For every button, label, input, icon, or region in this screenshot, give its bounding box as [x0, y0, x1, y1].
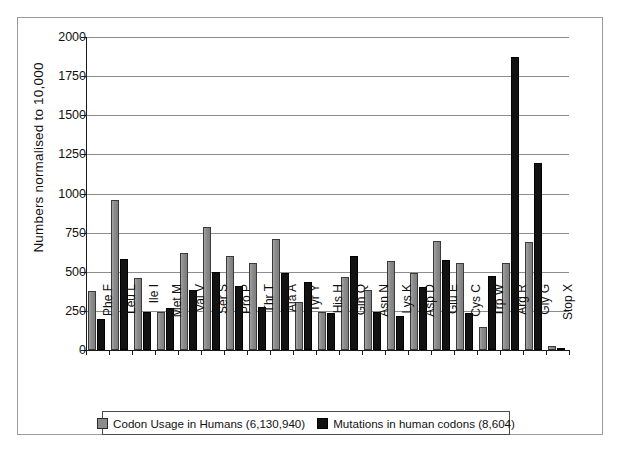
- y-tick-mark: [81, 194, 86, 195]
- y-tick-label: 1500: [38, 108, 86, 122]
- x-tick-mark: [224, 350, 225, 355]
- x-tick-mark: [293, 350, 294, 355]
- x-tick-mark: [178, 350, 179, 355]
- x-tick-mark: [339, 350, 340, 355]
- x-tick-label: Lys K: [400, 284, 414, 358]
- x-tick-label: Phe F: [101, 284, 115, 358]
- x-tick-mark: [500, 350, 501, 355]
- y-tick-mark: [81, 154, 86, 155]
- x-tick-mark: [316, 350, 317, 355]
- x-tick-label: Trp W: [492, 284, 506, 358]
- x-tick-mark: [569, 350, 570, 355]
- y-tick-mark: [81, 272, 86, 273]
- x-tick-mark: [201, 350, 202, 355]
- legend-item: Mutations in human codons (8,604): [317, 417, 515, 430]
- x-tick-label: Asp D: [423, 284, 437, 358]
- legend-label: Mutations in human codons (8,604): [333, 417, 515, 430]
- y-tick-label: 1750: [38, 69, 86, 83]
- y-tick-label: 0: [38, 343, 86, 357]
- x-tick-mark: [247, 350, 248, 355]
- y-axis-tick-labels: 025050075010001250150017502000: [30, 0, 86, 450]
- x-tick-mark: [431, 350, 432, 355]
- x-tick-mark: [86, 350, 87, 355]
- x-tick-label: His H: [331, 284, 345, 358]
- y-tick-mark: [81, 37, 86, 38]
- legend-item: Codon Usage in Humans (6,130,940): [97, 417, 305, 430]
- x-tick-mark: [523, 350, 524, 355]
- x-tick-mark: [362, 350, 363, 355]
- y-tick-mark: [81, 115, 86, 116]
- x-tick-label: Ser S: [216, 284, 230, 358]
- x-tick-mark: [454, 350, 455, 355]
- x-tick-label: Gln Q: [354, 284, 368, 358]
- x-tick-label: Asn N: [377, 284, 391, 358]
- x-tick-label: Glu E: [446, 284, 460, 358]
- x-tick-label: Met M: [170, 284, 184, 358]
- x-tick-mark: [109, 350, 110, 355]
- chart-figure: Numbers normalised to 10,000 02505007501…: [0, 0, 620, 450]
- y-tick-mark: [81, 233, 86, 234]
- x-tick-label: Gly G: [538, 284, 552, 358]
- x-tick-label: Arg R: [515, 284, 529, 358]
- x-tick-label: Leu L: [124, 284, 138, 358]
- x-tick-mark: [546, 350, 547, 355]
- legend-label: Codon Usage in Humans (6,130,940): [113, 417, 305, 430]
- bar-codon-usage: [88, 291, 96, 350]
- y-tick-label: 2000: [38, 30, 86, 44]
- x-tick-label: Val V: [193, 284, 207, 358]
- y-tick-mark: [81, 311, 86, 312]
- x-tick-mark: [408, 350, 409, 355]
- y-axis-line: [86, 37, 87, 351]
- y-tick-label: 500: [38, 265, 86, 279]
- x-tick-mark: [155, 350, 156, 355]
- x-tick-label: Cys C: [469, 284, 483, 358]
- gray-swatch: [97, 418, 108, 429]
- chart-legend: Codon Usage in Humans (6,130,940)Mutatio…: [102, 411, 510, 435]
- x-tick-mark: [385, 350, 386, 355]
- x-tick-label: Thr T: [262, 284, 276, 358]
- x-tick-label: Ile I: [147, 284, 161, 358]
- x-tick-label: Pro P: [239, 284, 253, 358]
- x-tick-label: Tyr Y: [308, 284, 322, 358]
- y-tick-mark: [81, 76, 86, 77]
- y-tick-label: 250: [38, 304, 86, 318]
- y-tick-label: 1000: [38, 187, 86, 201]
- x-tick-label: Ala A: [285, 284, 299, 358]
- x-tick-mark: [477, 350, 478, 355]
- y-tick-label: 750: [38, 226, 86, 240]
- black-swatch: [317, 418, 328, 429]
- x-tick-label: Stop X: [561, 284, 575, 358]
- y-tick-label: 1250: [38, 147, 86, 161]
- x-tick-mark: [270, 350, 271, 355]
- x-tick-mark: [132, 350, 133, 355]
